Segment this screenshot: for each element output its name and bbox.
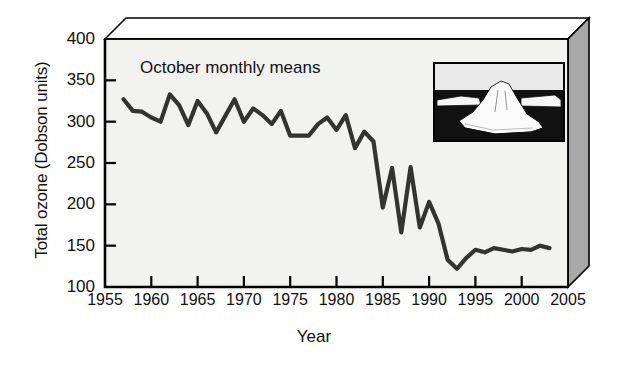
figure-canvas: Total ozone (Dobson units) Year 10015020…	[0, 0, 638, 369]
frame-right-bevel	[568, 18, 589, 287]
plot-area	[0, 0, 638, 369]
iceberg-photo-icon	[435, 64, 563, 140]
frame-top-bevel	[105, 18, 589, 39]
iceberg-photo-inset	[433, 62, 565, 142]
chart-annotation-october-means: October monthly means	[140, 58, 320, 78]
